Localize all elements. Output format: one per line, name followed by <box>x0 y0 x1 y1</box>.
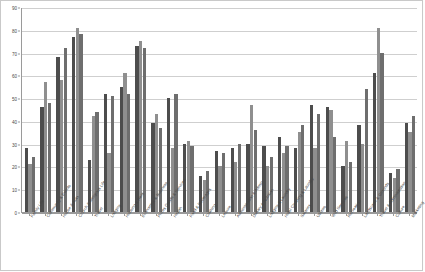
bar-group <box>275 8 291 212</box>
bar <box>159 128 162 212</box>
bar <box>111 96 114 212</box>
y-tick-label-50: 50 <box>12 97 17 102</box>
bar <box>412 116 415 212</box>
bar <box>285 146 288 212</box>
bar <box>190 146 193 212</box>
bar-group <box>228 8 244 212</box>
bar <box>48 103 51 212</box>
bar-group <box>212 8 228 212</box>
bar-group <box>323 8 339 212</box>
bar-group <box>196 8 212 212</box>
y-axis: 0102030405060708090 <box>0 8 20 213</box>
bar <box>365 89 368 212</box>
bar-group <box>54 8 70 212</box>
y-tickmark-80 <box>18 30 20 31</box>
bar <box>238 144 241 212</box>
bars-layer <box>22 8 417 212</box>
bar <box>222 153 225 212</box>
y-tick-label-90: 90 <box>12 6 17 11</box>
bar-group <box>244 8 260 212</box>
x-axis-labels: Family LifeCommunity & EventsHouse & Aut… <box>21 216 417 270</box>
y-tick-label-0: 0 <box>14 211 17 216</box>
bar-group <box>70 8 86 212</box>
y-tickmark-20 <box>18 167 20 168</box>
y-tickmark-10 <box>18 190 20 191</box>
y-tickmark-50 <box>18 99 20 100</box>
y-tick-label-40: 40 <box>12 119 17 124</box>
bar <box>79 34 82 212</box>
bar-group <box>38 8 54 212</box>
y-tick-label-70: 70 <box>12 51 17 56</box>
bar-group <box>149 8 165 212</box>
bar-group <box>355 8 371 212</box>
bar-group <box>117 8 133 212</box>
bar <box>270 157 273 212</box>
bar <box>143 48 146 212</box>
y-tickmark-70 <box>18 53 20 54</box>
bar-group <box>22 8 38 212</box>
bar-group <box>339 8 355 212</box>
bar <box>32 157 35 212</box>
bar-group <box>85 8 101 212</box>
bar <box>317 114 320 212</box>
y-tick-label-20: 20 <box>12 165 17 170</box>
bar <box>301 125 304 212</box>
y-tickmark-60 <box>18 76 20 77</box>
bar-group <box>386 8 402 212</box>
bar <box>127 94 130 212</box>
y-tickmark-90 <box>18 8 20 9</box>
bar-group <box>133 8 149 212</box>
y-tick-label-60: 60 <box>12 74 17 79</box>
bar-group <box>291 8 307 212</box>
y-tickmark-0 <box>18 213 20 214</box>
bar <box>254 130 257 212</box>
y-tick-label-10: 10 <box>12 188 17 193</box>
bar <box>333 137 336 212</box>
y-tickmark-40 <box>18 121 20 122</box>
bar <box>349 162 352 212</box>
y-tickmark-30 <box>18 144 20 145</box>
y-tick-label-80: 80 <box>12 28 17 33</box>
y-tick-label-30: 30 <box>12 142 17 147</box>
plot-area <box>21 8 417 213</box>
bar-group <box>370 8 386 212</box>
